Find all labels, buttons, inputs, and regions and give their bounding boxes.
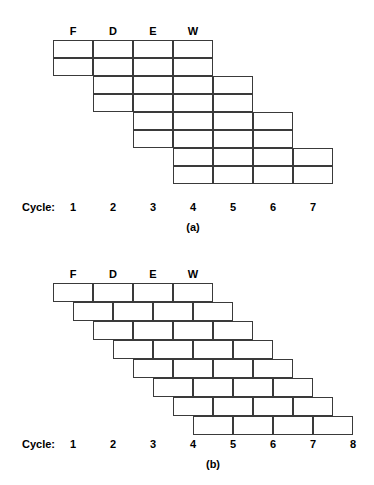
pipeline-cell bbox=[213, 359, 253, 378]
pipeline-cell bbox=[173, 166, 213, 184]
pipeline-figure-b: FDEW Cycle: 12345678 (b) bbox=[0, 245, 374, 485]
pipeline-cell bbox=[53, 58, 93, 76]
pipeline-cell bbox=[93, 58, 133, 76]
pipeline-cell bbox=[153, 340, 193, 359]
pipeline-cell bbox=[213, 397, 253, 416]
pipeline-cell bbox=[173, 58, 213, 76]
pipeline-cell bbox=[273, 378, 313, 397]
pipeline-cell bbox=[133, 359, 173, 378]
cycle-row-a: Cycle: 1234567 bbox=[0, 200, 374, 214]
pipeline-cell bbox=[133, 112, 173, 130]
pipeline-cell bbox=[233, 340, 273, 359]
pipeline-cell bbox=[173, 321, 213, 340]
pipeline-cell bbox=[173, 40, 213, 58]
pipeline-cell bbox=[253, 166, 293, 184]
cycle-number-7-b: 7 bbox=[293, 437, 333, 451]
stage-header-w-b: W bbox=[173, 267, 213, 281]
pipeline-cell bbox=[93, 321, 133, 340]
pipeline-cell bbox=[93, 94, 133, 112]
pipeline-cell bbox=[273, 416, 313, 435]
cycle-number-1-b: 1 bbox=[53, 437, 93, 451]
pipeline-cell bbox=[53, 40, 93, 58]
cycle-number-2-a: 2 bbox=[93, 200, 133, 214]
pipeline-cell bbox=[73, 302, 113, 321]
pipeline-cell bbox=[253, 112, 293, 130]
pipeline-cell bbox=[193, 416, 233, 435]
cycle-number-3-b: 3 bbox=[133, 437, 173, 451]
pipeline-cell bbox=[173, 130, 213, 148]
cycle-number-4-a: 4 bbox=[173, 200, 213, 214]
cycle-number-1-a: 1 bbox=[53, 200, 93, 214]
cycle-row-b: Cycle: 12345678 bbox=[0, 437, 374, 451]
pipeline-cell bbox=[133, 130, 173, 148]
pipeline-figure-a: FDEW Cycle: 1234567 (a) bbox=[0, 0, 374, 245]
pipeline-cell bbox=[133, 58, 173, 76]
pipeline-cell bbox=[173, 94, 213, 112]
pipeline-cell bbox=[93, 283, 133, 302]
pipeline-cell bbox=[253, 130, 293, 148]
figure-caption-b: (b) bbox=[0, 457, 374, 471]
pipeline-cell bbox=[133, 40, 173, 58]
pipeline-cell bbox=[313, 416, 353, 435]
pipeline-cell bbox=[193, 340, 233, 359]
stage-header-f-b: F bbox=[53, 267, 93, 281]
pipeline-cell bbox=[193, 302, 233, 321]
pipeline-cell bbox=[133, 94, 173, 112]
pipeline-cell bbox=[213, 76, 253, 94]
pipeline-cell bbox=[133, 321, 173, 340]
pipeline-cell bbox=[153, 302, 193, 321]
pipeline-cell bbox=[233, 416, 273, 435]
cycle-number-6-b: 6 bbox=[253, 437, 293, 451]
cycle-caption-b: Cycle: bbox=[22, 437, 55, 451]
pipeline-cell bbox=[173, 148, 213, 166]
pipeline-cell bbox=[133, 76, 173, 94]
stage-header-f-a: F bbox=[53, 24, 93, 38]
cycle-number-2-b: 2 bbox=[93, 437, 133, 451]
figure-caption-a: (a) bbox=[0, 220, 374, 234]
pipeline-cell bbox=[213, 148, 253, 166]
pipeline-cell bbox=[173, 283, 213, 302]
cycle-number-6-a: 6 bbox=[253, 200, 293, 214]
pipeline-cell bbox=[213, 321, 253, 340]
pipeline-cell bbox=[113, 302, 153, 321]
pipeline-cell bbox=[93, 76, 133, 94]
cycle-number-7-a: 7 bbox=[293, 200, 333, 214]
pipeline-cell bbox=[193, 378, 233, 397]
pipeline-cell bbox=[173, 76, 213, 94]
cycle-number-4-b: 4 bbox=[173, 437, 213, 451]
cycle-number-5-b: 5 bbox=[213, 437, 253, 451]
cycle-caption-a: Cycle: bbox=[22, 200, 55, 214]
pipeline-cell bbox=[153, 378, 193, 397]
pipeline-cell bbox=[253, 397, 293, 416]
pipeline-cell bbox=[293, 397, 333, 416]
pipeline-cell bbox=[233, 378, 273, 397]
pipeline-cell bbox=[213, 94, 253, 112]
pipeline-cell bbox=[93, 40, 133, 58]
stage-header-d-a: D bbox=[93, 24, 133, 38]
cycle-number-3-a: 3 bbox=[133, 200, 173, 214]
pipeline-cell bbox=[213, 166, 253, 184]
stage-header-e-b: E bbox=[133, 267, 173, 281]
pipeline-cell bbox=[133, 283, 173, 302]
stage-header-e-a: E bbox=[133, 24, 173, 38]
pipeline-cell bbox=[173, 359, 213, 378]
pipeline-cell bbox=[213, 112, 253, 130]
stage-header-d-b: D bbox=[93, 267, 133, 281]
pipeline-cell bbox=[113, 340, 153, 359]
pipeline-cell bbox=[213, 130, 253, 148]
pipeline-cell bbox=[53, 283, 93, 302]
pipeline-cell bbox=[253, 359, 293, 378]
cycle-number-8-b: 8 bbox=[333, 437, 373, 451]
pipeline-cell bbox=[173, 112, 213, 130]
figure-caption-a-text: (a) bbox=[186, 221, 199, 233]
pipeline-cell bbox=[173, 397, 213, 416]
figure-caption-b-text: (b) bbox=[206, 458, 220, 470]
cycle-number-5-a: 5 bbox=[213, 200, 253, 214]
pipeline-cell bbox=[293, 148, 333, 166]
pipeline-cell bbox=[293, 166, 333, 184]
pipeline-cell bbox=[253, 148, 293, 166]
stage-header-w-a: W bbox=[173, 24, 213, 38]
